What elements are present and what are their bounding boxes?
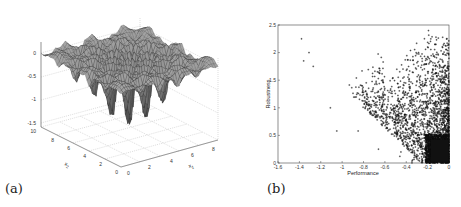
x-axis-label: Performance [347,170,379,176]
panel-a-caption: (a) [5,181,23,196]
y-tick-label: 0 [273,160,276,166]
scatter-plot-canvas: -1.6-1.4-1.2-1-0.8-0.6-0.4-0.2000.511.52… [230,0,461,207]
x1-tick-label: 4 [170,158,173,164]
y-tick-label: 2.5 [269,22,276,28]
x-tick-label: -0.6 [381,164,390,170]
x1-tick-label: 6 [191,152,194,158]
y-tick-label: 2 [273,49,276,55]
x-tick-label: -0.4 [402,164,411,170]
x2-tick-label: 2 [99,161,102,167]
panel-b-scatter-plot: -1.6-1.4-1.2-1-0.8-0.6-0.4-0.2000.511.52… [230,0,461,207]
panel-a-surface-plot: 0 -0.5 -1 -1.5 10 8 6 4 2 0 0 2 4 6 8 x2… [0,0,230,207]
x2-axis-label: x2 [63,161,72,170]
panel-b-caption: (b) [267,181,285,196]
x-tick-label: 0 [448,164,451,170]
x-tick-label: -1 [340,164,345,170]
surface-mesh [41,25,218,124]
x-tick-label: -0.2 [423,164,432,170]
x2-tick-label: 10 [30,128,36,134]
x1-tick-label: 8 [212,146,215,152]
axis-ticks: -1.6-1.4-1.2-1-0.8-0.6-0.4-0.2000.511.52… [269,22,451,170]
y-tick-label: 0.5 [269,132,276,138]
z-tick-label: -1.5 [27,120,36,126]
z-tick-label: -0.5 [27,73,36,79]
scatter-points [301,30,450,164]
x1-tick-label: 0 [127,170,130,176]
x-tick-label: -1.2 [316,164,325,170]
x-tick-label: -1.4 [295,164,304,170]
y-axis-label: Robustness [265,79,271,108]
x2-tick-label: 8 [51,137,54,143]
surface-plot-canvas: 0 -0.5 -1 -1.5 10 8 6 4 2 0 0 2 4 6 8 x2… [0,0,230,207]
x1-tick-label: 2 [148,164,151,170]
z-tick-label: 0 [33,50,36,56]
x2-tick-label: 0 [115,169,118,175]
x1-axis-label: x1 [188,162,195,171]
x2-tick-label: 6 [67,145,70,151]
y-tick-label: 1 [273,105,276,111]
x2-tick-label: 4 [83,153,86,159]
z-tick-label: -1 [32,96,37,102]
